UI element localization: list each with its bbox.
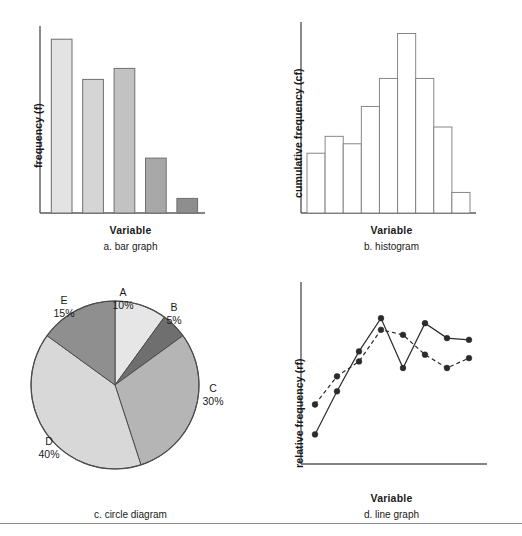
statistics-graph-figure: frequency (f) Variable a. bar graph cumu… <box>0 0 522 536</box>
line-data-point <box>400 365 406 371</box>
bar-graph-caption: a. bar graph <box>0 241 261 252</box>
histogram-bar <box>361 106 379 213</box>
line-data-point <box>312 432 318 438</box>
line-graph-y-axis-label: relative frequency (rf) <box>293 358 305 468</box>
histogram-bar <box>398 34 416 214</box>
pie-slice-label-b: B 5% <box>156 301 192 327</box>
line-data-point <box>444 335 450 341</box>
line-data-point <box>466 337 472 343</box>
pie-slice-label-d: D 40% <box>29 435 69 461</box>
pie-slice-name-b: B <box>170 301 177 313</box>
line-data-point <box>334 388 340 394</box>
line-data-point <box>378 315 384 321</box>
panel-histogram: cumulative frequency (cf) Variable b. hi… <box>261 0 522 268</box>
bar-graph-bar <box>177 198 198 213</box>
bar-graph-bar <box>146 158 167 213</box>
panel-bar-graph: frequency (f) Variable a. bar graph <box>0 0 261 268</box>
histogram-x-axis-label: Variable <box>261 224 522 236</box>
line-data-point <box>422 320 428 326</box>
histogram-bar <box>379 78 397 213</box>
line-data-point <box>378 327 384 333</box>
pie-slice-label-a: A 10% <box>103 286 143 312</box>
bar-graph-y-axis-label: frequency (f) <box>32 103 44 168</box>
histogram-bar <box>434 127 452 213</box>
bar-graph-bar <box>83 79 104 213</box>
histogram-bar <box>307 153 325 213</box>
histogram-bar <box>452 192 470 213</box>
line-data-point <box>312 402 318 408</box>
line-data-point <box>356 349 362 355</box>
bar-graph-bar <box>51 39 72 213</box>
pie-slice-value-a: 10% <box>112 299 133 311</box>
panel-line-graph: relative frequency (rf) Variable d. line… <box>261 268 522 536</box>
line-data-point <box>422 352 428 358</box>
line-data-point <box>356 359 362 365</box>
line-data-point <box>334 373 340 379</box>
pie-slice-value-c: 30% <box>202 395 223 407</box>
pie-slice-label-e: E 15% <box>44 294 84 320</box>
bar-graph-bar <box>114 68 135 213</box>
pie-slice-value-d: 40% <box>38 448 59 460</box>
pie-slice-value-e: 15% <box>53 307 74 319</box>
line-graph-x-axis-label: Variable <box>261 492 522 504</box>
line-data-point <box>400 332 406 338</box>
histogram-y-axis-label: cumulative frequency (cf) <box>292 68 304 198</box>
pie-slice-name-a: A <box>119 286 126 298</box>
line-data-point <box>444 365 450 371</box>
circle-diagram-caption: c. circle diagram <box>0 509 261 520</box>
pie-slice-name-e: E <box>60 294 67 306</box>
figure-bottom-divider <box>0 523 522 524</box>
histogram-bar <box>325 136 343 213</box>
bar-graph-x-axis-label: Variable <box>0 224 261 236</box>
pie-slice-name-c: C <box>209 382 217 394</box>
line-graph-caption: d. line graph <box>261 509 522 520</box>
line-data-point <box>466 355 472 361</box>
pie-slice-value-b: 5% <box>166 314 181 326</box>
histogram-bar <box>343 144 361 213</box>
histogram-caption: b. histogram <box>261 241 522 252</box>
panel-circle-diagram: A 10% B 5% C 30% D 40% E 15% c. circle d… <box>0 268 261 536</box>
pie-slice-label-c: C 30% <box>193 382 233 408</box>
pie-slice-name-d: D <box>45 435 53 447</box>
histogram-bar <box>416 78 434 213</box>
